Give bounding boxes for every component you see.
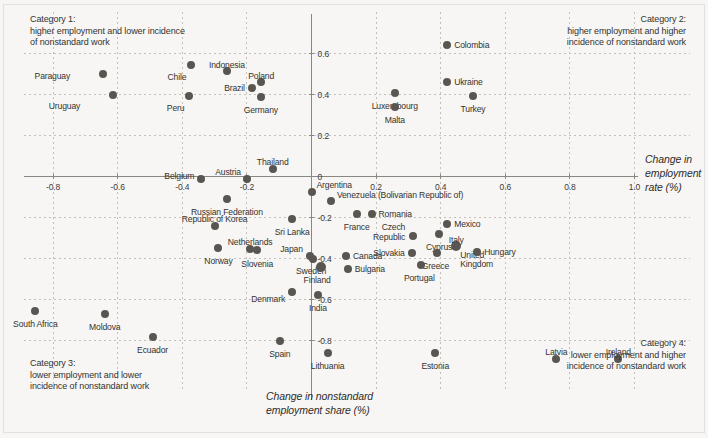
y-axis-tick <box>309 53 314 54</box>
data-point <box>248 84 256 92</box>
data-point-label: Venezuela (Bolivarian Republic of) <box>337 191 463 201</box>
data-point-label: Czech Republic <box>359 223 405 242</box>
data-point <box>443 220 451 228</box>
gridline-vertical <box>53 12 54 392</box>
data-point <box>109 91 117 99</box>
data-point-label: Paraguay <box>35 72 71 82</box>
data-point <box>243 175 251 183</box>
data-point <box>223 195 231 203</box>
y-axis-tick <box>309 135 314 136</box>
gridline-vertical <box>440 12 441 392</box>
data-point <box>353 210 361 218</box>
gridline-horizontal <box>24 53 690 54</box>
y-axis-tick-label: -0.8 <box>318 336 332 346</box>
data-point <box>452 242 460 250</box>
data-point <box>288 288 296 296</box>
data-point-label: Mexico <box>454 220 480 230</box>
data-point-label: Brazil <box>224 84 245 94</box>
data-point-label: Peru <box>167 104 185 114</box>
data-point-label: Indonesia <box>209 61 245 71</box>
y-axis-tick <box>309 340 314 341</box>
data-point <box>309 255 317 263</box>
data-point <box>253 246 261 254</box>
data-point-label: Denmark <box>251 295 285 305</box>
data-point-label: Finland <box>304 276 331 286</box>
quadrant-label-category-1: Category 1:higher employment and lower i… <box>30 14 185 49</box>
data-point <box>149 333 157 341</box>
data-point-label: Lithuania <box>311 362 345 372</box>
data-point <box>433 249 441 257</box>
data-point <box>344 265 352 273</box>
data-point-label: Spain <box>269 350 290 360</box>
data-point <box>101 310 109 318</box>
data-point <box>324 349 332 357</box>
gridline-horizontal <box>24 94 690 95</box>
data-point-label: Slovakia <box>373 249 404 259</box>
data-point-label: Greece <box>422 262 449 272</box>
x-axis-tick-label: 0.8 <box>564 182 576 192</box>
gridline-horizontal <box>24 135 690 136</box>
gridline-vertical <box>505 12 506 392</box>
data-point-label: Slovenia <box>241 260 273 270</box>
data-point <box>469 92 477 100</box>
data-point <box>435 230 443 238</box>
data-point <box>408 249 416 257</box>
quadrant-label-category-4: Category 4:lower employment and higherin… <box>567 338 686 373</box>
data-point-label: Colombia <box>454 41 489 51</box>
data-point-label: Germany <box>244 106 278 116</box>
data-point <box>308 188 316 196</box>
data-point-label: Malta <box>385 116 405 126</box>
data-point-label: Belgium <box>164 172 194 182</box>
data-point <box>443 41 451 49</box>
y-axis-title: Change inemploymentrate (%) <box>645 152 701 194</box>
x-axis-tick <box>53 174 54 179</box>
gridline-horizontal <box>24 299 690 300</box>
y-axis-tick-label: 0.4 <box>318 90 330 100</box>
data-point-label: Republic of Korea <box>182 215 248 225</box>
y-axis-tick <box>309 217 314 218</box>
gridline-vertical <box>634 12 635 392</box>
y-axis-tick-label: 0.2 <box>318 131 330 141</box>
x-axis-tick <box>634 174 635 179</box>
data-point-label: Netherlands <box>228 238 273 248</box>
x-axis-tick-label: 0.6 <box>500 182 512 192</box>
data-point <box>409 232 417 240</box>
data-point <box>99 70 107 78</box>
data-point-label: Uruguay <box>49 102 80 112</box>
y-axis-line <box>311 14 313 400</box>
data-point <box>327 197 335 205</box>
data-point <box>214 244 222 252</box>
data-point-label: Poland <box>248 72 274 82</box>
y-axis-tick <box>309 94 314 95</box>
data-point-label: Estonia <box>421 362 449 372</box>
x-axis-line <box>24 176 638 178</box>
data-point <box>342 252 350 260</box>
data-point <box>431 349 439 357</box>
y-axis-tick <box>309 299 314 300</box>
data-point <box>316 262 326 272</box>
data-point <box>473 248 481 256</box>
data-point <box>276 337 284 345</box>
x-axis-tick <box>505 174 506 179</box>
data-point-label: Portugal <box>404 274 435 284</box>
data-point <box>197 175 205 183</box>
x-axis-tick-label: -0.8 <box>46 182 60 192</box>
data-point-label: Romania <box>379 210 412 220</box>
chart-figure: -0.8-0.6-0.4-0.20.20.40.60.81.00.60.40.2… <box>0 0 708 438</box>
x-axis-title: Change in nonstandardemployment share (%… <box>266 389 373 417</box>
data-point-label: Bulgaria <box>355 265 385 275</box>
data-point-label: South Africa <box>13 320 58 330</box>
data-point <box>185 92 193 100</box>
x-axis-tick <box>117 174 118 179</box>
data-point-label: India <box>309 304 327 314</box>
data-point <box>391 89 399 97</box>
data-point-label: Chile <box>168 73 187 83</box>
data-point-label: Norway <box>204 257 232 267</box>
quadrant-label-category-3: Category 3:lower employment and lowerinc… <box>30 358 149 393</box>
data-point-label: Ecuador <box>137 346 168 356</box>
data-point <box>314 291 322 299</box>
data-point-label: Hungary <box>484 248 515 258</box>
data-point-label: Latvia <box>545 348 567 358</box>
data-point <box>417 261 425 269</box>
data-point-label: Turkey <box>460 105 485 115</box>
